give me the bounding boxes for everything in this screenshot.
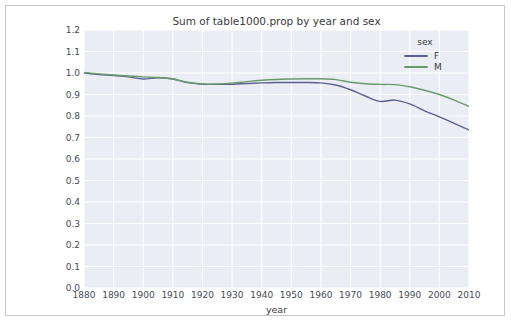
x-tick-label: 1980: [369, 290, 392, 300]
y-tick-label: 0.3: [54, 219, 80, 229]
y-axis-ticks: 1.21.11.00.90.80.70.60.50.40.30.20.10.0: [50, 30, 80, 288]
x-tick-label: 1890: [102, 290, 125, 300]
legend-title: sex: [402, 37, 448, 47]
y-tick-label: 0.7: [54, 133, 80, 143]
x-tick-label: 1930: [221, 290, 244, 300]
y-tick-label: 0.4: [54, 197, 80, 207]
y-tick-label: 0.6: [54, 154, 80, 164]
x-tick-label: 1950: [280, 290, 303, 300]
x-tick-label: 1900: [132, 290, 155, 300]
x-tick-label: 2000: [428, 290, 451, 300]
legend-label: F: [434, 51, 439, 61]
series-line-F: [84, 73, 469, 130]
y-tick-label: 0.1: [54, 262, 80, 272]
legend-swatch-icon: [404, 55, 428, 57]
x-axis-ticks: 1880189019001910192019301940195019601970…: [84, 290, 469, 304]
x-tick-label: 1990: [398, 290, 421, 300]
x-tick-label: 1970: [339, 290, 362, 300]
y-tick-label: 1.0: [54, 68, 80, 78]
y-tick-label: 0.9: [54, 90, 80, 100]
x-tick-label: 1960: [309, 290, 332, 300]
y-tick-label: 0.2: [54, 240, 80, 250]
screenshot-page: Sum of table1000.prop by year and sex 1.…: [0, 0, 511, 322]
x-tick-label: 1880: [73, 290, 96, 300]
chart-title: Sum of table1000.prop by year and sex: [84, 15, 469, 27]
y-tick-label: 1.1: [54, 47, 80, 57]
x-tick-label: 1910: [161, 290, 184, 300]
x-tick-label: 2010: [458, 290, 481, 300]
legend-swatch-icon: [404, 66, 428, 68]
y-tick-label: 0.8: [54, 111, 80, 121]
legend-entries: FM: [402, 50, 464, 72]
legend-label: M: [434, 62, 442, 72]
chart-figure: Sum of table1000.prop by year and sex 1.…: [6, 6, 505, 316]
y-tick-label: 1.2: [54, 25, 80, 35]
x-tick-label: 1920: [191, 290, 214, 300]
legend-item-M[interactable]: M: [402, 61, 464, 72]
chart-legend: sex FM: [402, 37, 464, 72]
x-axis-label: year: [84, 304, 469, 315]
y-tick-label: 0.5: [54, 176, 80, 186]
document-frame: Sum of table1000.prop by year and sex 1.…: [5, 5, 505, 316]
legend-item-F[interactable]: F: [402, 50, 464, 61]
data-series-group: [84, 73, 469, 130]
x-tick-label: 1940: [250, 290, 273, 300]
series-line-M: [84, 73, 469, 107]
